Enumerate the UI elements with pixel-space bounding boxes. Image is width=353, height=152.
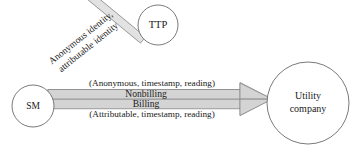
node-sm-label: SM bbox=[26, 101, 40, 111]
node-utility-label-line2: company bbox=[290, 103, 327, 114]
billing-label-inside: Billing bbox=[133, 98, 160, 109]
nonbilling-label-above: (Anonymous, timestamp, reading) bbox=[89, 78, 215, 88]
node-utility-label-line1: Utility bbox=[295, 90, 321, 101]
diagram-svg: Anonymous identity, attributable identit… bbox=[0, 0, 353, 152]
billing-label-below: (Attributable, timestamp, reading) bbox=[89, 109, 215, 119]
node-ttp-label: TTP bbox=[149, 19, 168, 30]
diagram-canvas: Anonymous identity, attributable identit… bbox=[0, 0, 353, 152]
ttp-to-sm-label-group: Anonymous identity, attributable identit… bbox=[47, 9, 122, 75]
